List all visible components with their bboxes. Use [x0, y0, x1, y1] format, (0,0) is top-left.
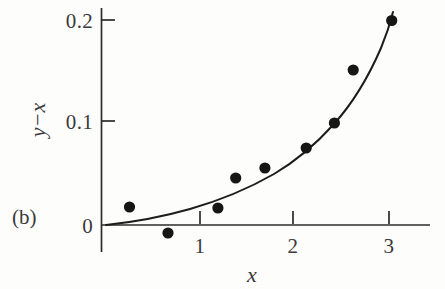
x-axis-ticks [200, 211, 389, 224]
data-point [162, 227, 173, 238]
y-tick-label-0.1: 0.1 [66, 110, 93, 134]
data-point [259, 162, 270, 173]
data-point [212, 202, 223, 213]
y-axis-label: y−x [25, 103, 50, 140]
y-tick-label-0: 0 [82, 214, 93, 238]
data-point [124, 201, 135, 212]
scatter-plot-canvas: 0.2 0.1 0 1 2 3 x y−x (b) [0, 0, 445, 289]
figure-panel-b: 0.2 0.1 0 1 2 3 x y−x (b) [0, 0, 445, 289]
data-point [301, 142, 312, 153]
data-point [348, 64, 359, 75]
x-axis-label: x [246, 262, 257, 287]
data-point [230, 172, 241, 183]
x-tick-label-3: 3 [384, 234, 395, 258]
panel-label: (b) [12, 205, 37, 229]
axes-group [102, 8, 431, 252]
x-tick-label-2: 2 [288, 234, 299, 258]
y-tick-label-0.2: 0.2 [66, 9, 93, 33]
x-tick-label-1: 1 [195, 234, 206, 258]
data-point [329, 117, 340, 128]
fit-curve [106, 12, 393, 225]
data-points-group [124, 15, 397, 239]
y-axis-ticks [102, 20, 115, 121]
data-point [386, 15, 397, 26]
